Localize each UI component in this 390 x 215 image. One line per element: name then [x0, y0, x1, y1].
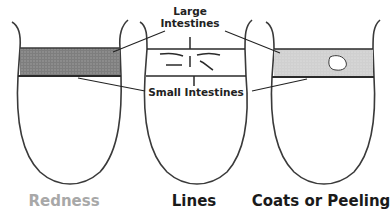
tongue-lines	[140, 20, 252, 184]
caption-lines: Lines	[172, 192, 216, 210]
shaded-band	[20, 48, 120, 76]
tongue-outline	[266, 20, 380, 184]
large-intestines-label: Large Intestines	[159, 5, 220, 29]
coated-band	[274, 49, 373, 77]
tongue-coats-or-peeling	[266, 20, 380, 184]
tongue-outline	[140, 20, 252, 184]
tongue-outline	[12, 20, 128, 184]
line-marks	[160, 37, 220, 88]
caption-redness: Redness	[28, 192, 99, 210]
peeled-spot	[329, 56, 347, 71]
large-intestines-line1: Large	[160, 5, 219, 17]
small-intestines-label: Small Intestines	[147, 86, 245, 98]
tongue-redness	[12, 20, 128, 184]
caption-coats-or-peeling: Coats or Peeling	[252, 192, 390, 210]
large-intestines-line2: Intestines	[160, 17, 219, 29]
